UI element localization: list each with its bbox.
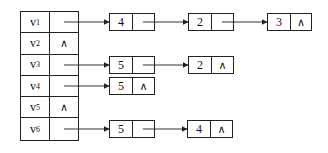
arrows-layer <box>0 0 328 153</box>
adjacency-list-diagram: v1 v2 ∧ v3 v4 v5 ∧ v6 4 2 3 <box>0 0 328 153</box>
